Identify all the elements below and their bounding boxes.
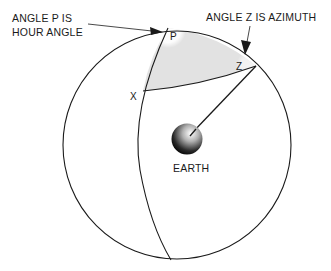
- azimuth-label: ANGLE Z IS AZIMUTH: [206, 11, 316, 23]
- hour-angle-pointer-line: [88, 24, 152, 31]
- earth-label: EARTH: [173, 162, 209, 174]
- point-x-label: X: [130, 91, 137, 102]
- azimuth-pointer-line: [247, 26, 250, 42]
- vertex-p-label: P: [170, 31, 177, 42]
- celestial-triangle-diagram: ANGLE P IS HOUR ANGLE ANGLE Z IS AZIMUTH…: [0, 0, 331, 271]
- hour-angle-arrowhead: [150, 27, 163, 35]
- hour-angle-label-line2: HOUR ANGLE: [12, 26, 83, 38]
- earth-sphere: [172, 124, 203, 155]
- azimuth-arrowhead: [241, 40, 251, 55]
- hour-angle-label-line1: ANGLE P IS: [12, 12, 72, 24]
- vertex-z-label: Z: [236, 61, 242, 72]
